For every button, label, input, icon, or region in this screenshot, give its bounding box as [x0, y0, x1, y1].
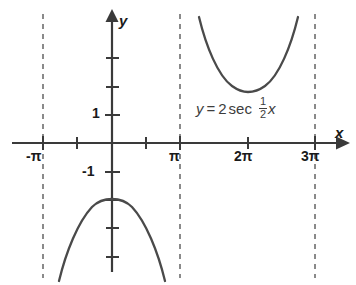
- x-tick-label-pi: π: [169, 149, 180, 163]
- secant-upper-branch: [199, 17, 298, 92]
- equation-coefficient: 2: [218, 100, 226, 117]
- x-tick-label-neg-pi: -π: [26, 149, 41, 163]
- plot-canvas: [0, 0, 356, 285]
- x-tick-label-3pi: 3π: [301, 149, 320, 163]
- x-axis-label: x: [335, 125, 343, 140]
- equation-variable: x: [268, 100, 276, 117]
- equation-function: sec: [229, 100, 252, 117]
- fraction-denominator: 2: [259, 108, 267, 121]
- y-axis: [105, 9, 120, 272]
- x-axis: [12, 136, 350, 150]
- y-tick-label-neg-one: -1: [82, 164, 94, 178]
- secant-graph-figure: x y -π π 2π 3π 1 -1 y = 2 sec 1 2 x: [0, 0, 356, 285]
- fraction-numerator: 1: [259, 96, 267, 108]
- y-tick-label-one: 1: [92, 106, 100, 120]
- y-axis-arrowhead: [106, 9, 119, 22]
- x-tick-label-2pi: 2π: [234, 149, 253, 163]
- equation-annotation: y = 2 sec 1 2 x: [196, 96, 276, 120]
- equation-lhs: y: [196, 100, 204, 117]
- y-axis-label: y: [119, 13, 127, 28]
- equation-operator: =: [207, 100, 216, 117]
- equation-fraction-one-half: 1 2: [259, 96, 267, 120]
